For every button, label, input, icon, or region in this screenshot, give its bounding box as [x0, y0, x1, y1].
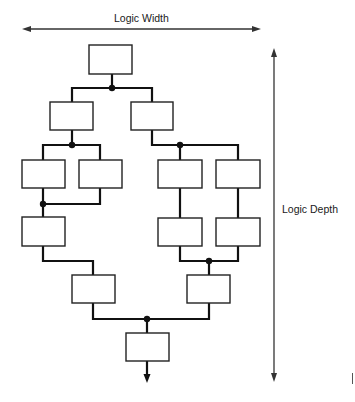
- logic-box: [216, 218, 260, 246]
- arrow-up-icon: [271, 48, 277, 57]
- logic-box: [158, 160, 202, 188]
- arrow-left-icon: [22, 26, 31, 32]
- junction-dot: [177, 142, 183, 148]
- logic-width-label: Logic Width: [114, 12, 169, 24]
- logic-box: [50, 102, 93, 130]
- logic-box: [22, 160, 65, 188]
- wire: [152, 130, 238, 160]
- output-arrow-icon: [144, 374, 151, 383]
- arrow-down-icon: [271, 373, 277, 382]
- logic-width-arrow: [22, 26, 261, 32]
- logic-box: [126, 333, 169, 361]
- junction-dot: [206, 258, 212, 264]
- logic-box: [79, 160, 122, 188]
- junction-dot: [40, 201, 46, 207]
- scan-artifact-mark: [352, 373, 353, 384]
- junction-dot: [109, 85, 115, 91]
- logic-diagram: [0, 0, 355, 402]
- logic-depth-arrow: [271, 48, 277, 382]
- logic-box: [89, 45, 132, 74]
- logic-box: [187, 275, 230, 303]
- logic-box: [158, 218, 202, 246]
- logic-box: [72, 275, 115, 303]
- junction-dot: [69, 142, 75, 148]
- logic-depth-label: Logic Depth: [282, 203, 338, 215]
- arrow-right-icon: [252, 26, 261, 32]
- wire: [93, 303, 209, 319]
- wire: [43, 188, 100, 204]
- logic-box: [216, 160, 260, 188]
- logic-box: [22, 217, 65, 246]
- wire: [43, 246, 93, 275]
- logic-box: [131, 102, 173, 130]
- junction-dot: [144, 316, 150, 322]
